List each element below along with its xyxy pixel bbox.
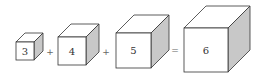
plus-sign: + xyxy=(102,47,110,57)
cube-sum-diagram: 3456++= xyxy=(0,0,265,82)
cube-3: 3 xyxy=(16,33,43,60)
cube-6: 6 xyxy=(184,6,250,72)
cube-5: 5 xyxy=(116,15,169,68)
cube-4: 4 xyxy=(58,24,99,65)
cube-label: 4 xyxy=(69,46,75,57)
plus-sign: + xyxy=(46,47,54,57)
cube-label: 5 xyxy=(130,45,136,56)
equals-sign: = xyxy=(171,45,179,55)
cube-label: 3 xyxy=(22,46,28,57)
cube-label: 6 xyxy=(203,45,209,56)
